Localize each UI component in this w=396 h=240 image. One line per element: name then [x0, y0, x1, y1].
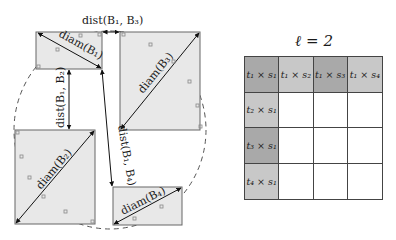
- table-title: ℓ = 2: [244, 32, 384, 50]
- grid-cell: [314, 93, 348, 129]
- box-b2: diam(B₂): [15, 130, 95, 224]
- grid-cell: [314, 128, 348, 164]
- dist-b1-b2-label: dist(B₁, B₂): [54, 67, 67, 128]
- grid-cell: t₁ × s₃: [314, 57, 348, 93]
- box-b1: diam(B₁): [36, 27, 105, 69]
- dist-b1-b3-label: dist(B₁, B₃): [82, 14, 143, 27]
- dist-b1-b4-label: dist(B₁, B₄): [115, 124, 138, 187]
- grid-cell: [279, 164, 313, 200]
- box-b4: diam(B₄): [113, 184, 182, 225]
- grid-cell: t₃ × s₁: [245, 128, 279, 164]
- grid-cell: [348, 164, 382, 200]
- grid-cell: t₁ × s₂: [279, 57, 313, 93]
- grid-cell: [348, 128, 382, 164]
- dist-b1-b4-arrow: [102, 70, 112, 186]
- grid-cell: t₁ × s₁: [245, 57, 279, 93]
- grid-cell: [279, 128, 313, 164]
- grid-cell: [279, 93, 313, 129]
- grid-cell: t₂ × s₁: [245, 93, 279, 129]
- grid-cell: t₁ × s₄: [348, 57, 382, 93]
- grid-cell: t₄ × s₁: [245, 164, 279, 200]
- grid-cell: [314, 164, 348, 200]
- grid-cell: [348, 93, 382, 129]
- pair-grid: t₁ × s₁ t₁ × s₂ t₁ × s₃ t₁ × s₄ t₂ × s₁ …: [244, 56, 383, 200]
